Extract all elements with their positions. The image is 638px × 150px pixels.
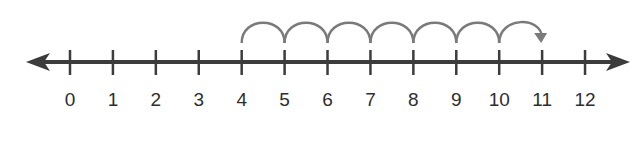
tick-label: 10 bbox=[489, 89, 510, 110]
tick-label: 1 bbox=[108, 89, 119, 110]
tick-label: 3 bbox=[193, 89, 204, 110]
jump-arc bbox=[285, 23, 328, 43]
jump-arcs bbox=[242, 22, 547, 43]
tick-label: 0 bbox=[65, 89, 76, 110]
tick-labels: 0123456789101112 bbox=[65, 89, 596, 110]
jump-arc bbox=[370, 23, 413, 43]
jump-arc bbox=[456, 23, 499, 43]
tick-label: 12 bbox=[574, 89, 595, 110]
jump-arc bbox=[328, 23, 371, 43]
jump-arrowhead-icon bbox=[534, 33, 547, 43]
tick-label: 4 bbox=[236, 89, 247, 110]
tick-label: 6 bbox=[322, 89, 333, 110]
tick-label: 5 bbox=[279, 89, 290, 110]
number-line-diagram: 0123456789101112 bbox=[0, 0, 638, 150]
jump-arc bbox=[499, 22, 542, 43]
tick-label: 8 bbox=[408, 89, 419, 110]
tick-label: 7 bbox=[365, 89, 376, 110]
tick-label: 9 bbox=[451, 89, 462, 110]
tick-label: 2 bbox=[151, 89, 162, 110]
tick-label: 11 bbox=[532, 89, 552, 110]
jump-arc bbox=[413, 23, 456, 43]
jump-arc bbox=[242, 23, 285, 43]
